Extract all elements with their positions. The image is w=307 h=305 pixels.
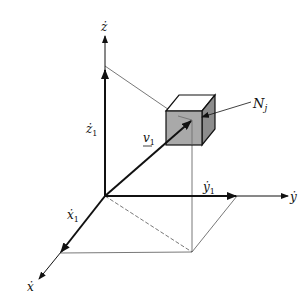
z1-to-cube-line <box>105 66 178 116</box>
y1-parallel-line <box>192 196 237 252</box>
x1-component-label: ẋ1 <box>67 208 79 224</box>
x1-parallel-line <box>60 252 192 253</box>
y-axis-label: ẏ <box>289 190 297 204</box>
x-axis-label: ẋ <box>27 280 34 294</box>
nj-element-label: Nj <box>252 96 267 113</box>
origin-to-projection-dashed <box>105 196 192 252</box>
z-axis-label: ż <box>100 20 108 34</box>
y1-component-label: ẏ1 <box>202 180 215 196</box>
v1-vector-label: v1 <box>143 131 155 147</box>
projection-lines <box>60 66 237 253</box>
z1-component-label: ż1 <box>85 122 97 138</box>
velocity-vector-diagram: ż ż1 ẏ ẏ1 ẋ ẋ1 v1 Nj <box>0 0 307 305</box>
